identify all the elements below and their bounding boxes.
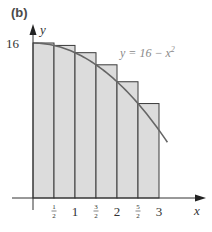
x-tick-labels: 121322523 <box>52 203 163 220</box>
function-label: y = 16 − x2 <box>119 45 175 60</box>
x-tick-label: 3 <box>156 204 163 219</box>
riemann-rectangle-4 <box>96 65 117 198</box>
x-tick-numerator: 3 <box>94 203 98 211</box>
riemann-rectangle-1 <box>33 43 54 198</box>
x-tick-denominator: 2 <box>94 212 98 220</box>
x-tick-denominator: 2 <box>136 212 140 220</box>
riemann-rectangle-2 <box>54 45 75 198</box>
y-axis-label: y <box>38 22 46 37</box>
riemann-rectangle-6 <box>138 104 159 198</box>
y-tick-16: 16 <box>6 36 20 51</box>
riemann-rectangle-3 <box>75 53 96 198</box>
riemann-rectangles <box>33 43 159 198</box>
x-tick-label: 1 <box>72 204 79 219</box>
x-tick-numerator: 5 <box>136 203 140 211</box>
x-tick-numerator: 1 <box>52 203 56 211</box>
riemann-sum-chart: y x 16 121322523 y = 16 − x2 <box>0 0 212 232</box>
x-tick-label: 2 <box>114 204 121 219</box>
x-tick-denominator: 2 <box>52 212 56 220</box>
x-axis-arrow-icon <box>195 195 206 202</box>
x-axis-label: x <box>193 203 200 218</box>
y-axis-arrow-icon <box>30 24 37 35</box>
